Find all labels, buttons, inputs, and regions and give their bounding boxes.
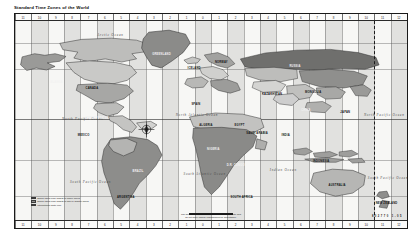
top-hour-label: 5 [120,15,122,21]
bottom-hour-label: 6 [300,222,302,228]
top-hour-tick [227,14,228,20]
country-label: D.R. CONGO [227,164,245,167]
top-hour-tick [113,14,114,20]
bottom-hour-label: 10 [364,222,367,228]
bottom-hour-tick [211,221,212,228]
top-hour-label: 6 [104,15,106,21]
country-label: MONGOLIA [305,91,321,94]
bottom-hour-tick [325,221,326,228]
time-zone-map-page: Standard Time Zones of the World 1110987… [0,0,419,242]
caption-line: do not imply official endorsement or acc… [136,216,286,219]
country-label: MEXICO [78,134,90,137]
top-hour-tick [48,14,49,20]
top-hour-tick [260,14,261,20]
top-hour-tick [309,14,310,20]
top-hour-label: 10 [38,15,41,21]
bottom-hour-tick [195,221,196,228]
top-hour-tick [276,14,277,20]
bottom-hour-tick [97,221,98,228]
meridian-line [15,21,16,220]
bottom-hour-tick [178,221,179,228]
top-hour-tick [64,14,65,20]
bottom-hour-tick [162,221,163,228]
bottom-hour-label: 8 [71,222,73,228]
ocean-label: North Atlantic Ocean [176,113,218,117]
bottom-hour-tick [342,221,343,228]
top-hour-tick [178,14,179,20]
top-hour-label: 1 [218,15,220,21]
legend-row: Zones using UTC offsets of half or quart… [31,200,91,203]
bottom-hour-label: 5 [120,222,122,228]
country-label: SOUTH AFRICA [231,196,253,199]
bottom-hour-tick [129,221,130,228]
country-label: NORWAY [215,61,228,64]
bottom-hour-ruler: 11109876543210123456789101112 [15,220,407,228]
top-hour-label: 10 [364,15,367,21]
country-label: SPAIN [191,103,200,106]
bottom-hour-label: 3 [251,222,253,228]
top-hour-label: 9 [349,15,351,21]
bottom-hour-tick [64,221,65,228]
map-canvas: Arctic OceanNorth Pacific OceanNorth Atl… [15,21,407,220]
top-hour-label: 3 [251,15,253,21]
legend-swatch [31,197,36,199]
top-hour-tick [342,14,343,20]
top-hour-tick [129,14,130,20]
legend-row: International Date Line [31,204,91,207]
country-label: NEW ZEALAND [376,202,398,205]
country-label: RUSSIA [289,65,300,68]
ocean-label: Indian Ocean [270,168,297,172]
bottom-hour-tick [276,221,277,228]
top-hour-label: 7 [316,15,318,21]
ocean-label: South Atlantic Ocean [184,172,226,176]
international-date-line [374,21,375,220]
bottom-hour-label: 10 [38,222,41,228]
bottom-hour-tick [113,221,114,228]
top-hour-ruler: 11109876543210123456789101112 [15,14,407,21]
top-hour-tick [195,14,196,20]
map-legend: Zones using UTC offsets of whole hoursZo… [31,197,91,207]
top-hour-label: 11 [22,15,25,21]
country-label: ALGERIA [199,124,212,127]
top-hour-label: 12 [397,15,400,21]
ocean-label: North Pacific Ocean [364,113,405,117]
top-hour-label: 6 [300,15,302,21]
top-hour-tick [325,14,326,20]
bottom-hour-label: 1 [218,222,220,228]
country-label: ARGENTINA [117,196,135,199]
bottom-hour-tick [80,221,81,228]
ocean-label: Arctic Ocean [97,33,123,37]
top-hour-tick [97,14,98,20]
legend-row: Zones using UTC offsets of whole hours [31,197,91,200]
country-label: KAZAKHSTAN [262,93,282,96]
country-label: ICELAND [187,67,200,70]
bottom-hour-label: 3 [153,222,155,228]
legend-label: International Date Line [37,204,61,207]
top-hour-label: 4 [137,15,139,21]
bottom-hour-label: 12 [397,222,400,228]
top-hour-label: 2 [235,15,237,21]
top-hour-label: 1 [186,15,188,21]
bottom-hour-label: 7 [88,222,90,228]
country-label: ALASKA [50,81,62,84]
bottom-hour-tick [309,221,310,228]
top-hour-label: 5 [284,15,286,21]
ocean-label: South Pacific Ocean [70,180,111,184]
country-label: GREENLAND [152,53,171,56]
top-hour-label: 9 [55,15,57,21]
bottom-hour-tick [31,221,32,228]
top-hour-tick [162,14,163,20]
top-hour-tick [374,14,375,20]
map-code-number: 802770 1-05 [372,215,403,218]
country-label: UNITED STATES [86,117,109,120]
top-hour-label: 8 [71,15,73,21]
bottom-hour-tick [293,221,294,228]
bottom-hour-tick [260,221,261,228]
country-label: SAUDI ARABIA [246,132,268,135]
bottom-hour-label: 4 [267,222,269,228]
bottom-hour-tick [374,221,375,228]
map-caption: The boundaries shown on this map are app… [136,213,286,219]
bottom-hour-label: 5 [284,222,286,228]
top-hour-label: 3 [153,15,155,21]
page-title: Standard Time Zones of the World [14,5,274,11]
